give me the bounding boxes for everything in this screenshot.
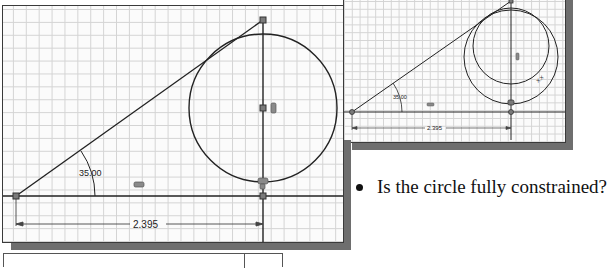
tangent-constraint-icon — [258, 178, 268, 184]
bullet-item: Is the circle fully constrained? — [356, 176, 607, 198]
sketch-point — [260, 193, 266, 199]
sketch-point — [260, 17, 266, 23]
vertical-constraint-icon — [516, 53, 519, 60]
inset-angled-line — [352, 1, 511, 112]
inset-constraint-glyphs — [427, 53, 519, 106]
tangent-constraint-icon — [508, 100, 514, 105]
main-angle-dimension[interactable]: 35.00 — [79, 168, 102, 178]
vertical-constraint-icon — [271, 103, 276, 113]
main-constraint-glyphs — [134, 103, 276, 189]
bullet-icon — [356, 184, 363, 191]
circle-center-point — [260, 105, 266, 111]
sketch-point — [509, 0, 513, 3]
sketch-point — [13, 193, 19, 199]
main-geometry — [3, 20, 343, 242]
coincident-constraint-icon — [260, 184, 265, 189]
inset-points — [350, 0, 515, 115]
inset-circle-label: X.X — [535, 74, 546, 84]
sketch-point — [509, 110, 514, 115]
frame-divider — [244, 254, 245, 268]
inset-linear-dimension-value[interactable]: 2.395 — [427, 125, 443, 131]
inset-geometry — [344, 1, 565, 140]
bullet-question-text: Is the circle fully constrained? — [377, 176, 607, 198]
inset-angle-dimension[interactable]: 35.00 — [393, 94, 407, 100]
sketch-point — [350, 110, 355, 115]
main-linear-dimension-value[interactable]: 2.395 — [133, 219, 158, 230]
angled-line — [16, 20, 263, 196]
horizontal-constraint-icon — [427, 103, 434, 106]
next-figure-frame — [3, 253, 283, 267]
horizontal-constraint-icon — [134, 182, 144, 187]
